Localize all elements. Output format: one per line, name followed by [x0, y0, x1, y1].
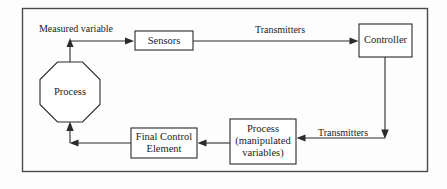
node-process-manipulated-label-line2: (manipulated: [235, 135, 291, 147]
node-controller[interactable]: Controller: [359, 24, 412, 57]
node-sensors-label: Sensors: [148, 35, 181, 46]
edge-sensors-to-controller: [193, 38, 359, 45]
edge-label-transmitters-bottom: Transmitters: [318, 127, 368, 138]
arrow-head-left-to-fce: [198, 140, 207, 147]
control-loop-diagram: Sensors Controller Process Final Control…: [0, 0, 447, 189]
edge-process-manipulated-to-fce: [198, 140, 231, 147]
arrow-head-left-corner: [70, 140, 79, 147]
node-sensors[interactable]: Sensors: [135, 31, 193, 50]
edge-process-to-sensors: [67, 38, 135, 62]
node-controller-label: Controller: [364, 34, 408, 45]
diagram-page: Sensors Controller Process Final Control…: [0, 0, 447, 189]
node-fce-label-line1: Final Control: [136, 131, 192, 142]
arrow-head-right-to-sensors: [125, 38, 134, 45]
edge-label-measured-variable: Measured variable: [39, 23, 114, 34]
edge-label-transmitters-top: Transmitters: [255, 24, 305, 35]
arrow-head-up-to-process: [66, 122, 73, 132]
arrow-head-right-to-controller: [350, 38, 359, 45]
node-process-label: Process: [54, 86, 86, 97]
node-process-manipulated-label-line1: Process: [247, 123, 279, 134]
arrow-head-up-to-measured: [67, 38, 74, 47]
node-fce-label-line2: Element: [147, 143, 182, 154]
node-process-octagon[interactable]: Process: [40, 62, 100, 122]
node-final-control-element[interactable]: Final Control Element: [131, 128, 197, 158]
arrow-head-left-to-process-manipulated: [297, 135, 306, 142]
node-process-manipulated-label-line3: variables): [242, 147, 284, 159]
node-process-manipulated[interactable]: Process (manipulated variables): [230, 119, 296, 164]
edge-fce-to-process-octagon: [66, 122, 131, 147]
